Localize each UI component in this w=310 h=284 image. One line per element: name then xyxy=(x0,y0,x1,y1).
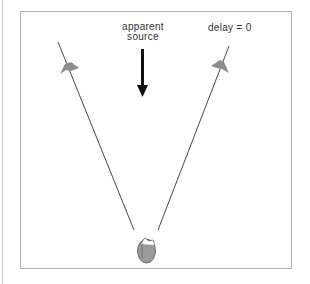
right-sight-line xyxy=(158,46,229,230)
listener-head-icon xyxy=(138,238,156,263)
speaker-left-icon xyxy=(60,62,79,74)
speaker-right-icon xyxy=(211,60,229,73)
stereo-diagram xyxy=(0,0,310,284)
apparent-source-arrow-icon xyxy=(137,49,148,97)
